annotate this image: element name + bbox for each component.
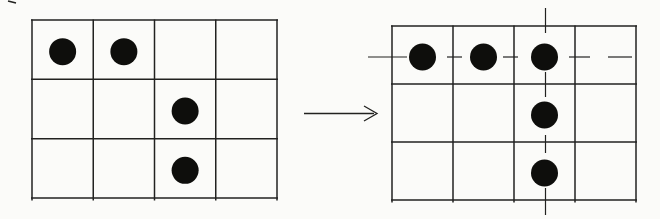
dot: [172, 157, 199, 184]
dot: [172, 98, 199, 125]
dot: [531, 102, 558, 129]
dot: [531, 160, 558, 187]
figure-canvas: [0, 0, 660, 219]
dot: [49, 38, 76, 65]
paper-background: [0, 0, 660, 219]
dot: [409, 44, 436, 71]
dot: [110, 38, 137, 65]
dot-grid-figure: [0, 0, 660, 219]
dot: [470, 44, 497, 71]
dot: [531, 44, 558, 71]
